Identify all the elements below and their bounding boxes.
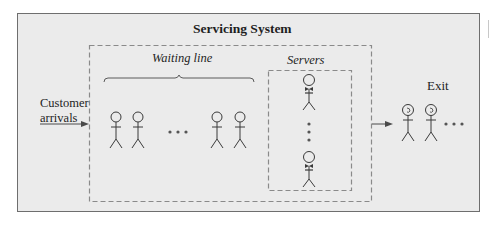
exit-label: Exit [427, 78, 449, 94]
waiting-customer-icon [234, 112, 246, 148]
servers-label: Servers [287, 53, 325, 68]
customer-arrivals-label: Customer arrivals [40, 96, 89, 126]
server-icon [303, 75, 315, 111]
waiting-line-label: Waiting line [152, 51, 212, 66]
exit-arrow [372, 121, 393, 127]
servers-ellipsis-icon [307, 122, 310, 141]
waiting-customer-icon [132, 112, 144, 148]
arrivals-label-line1: Customer [40, 96, 89, 111]
waiting-customer-icon [110, 112, 122, 148]
waiting-line-brace [104, 75, 254, 82]
exited-customer-icon [402, 105, 414, 142]
waiting-ellipsis-icon [168, 130, 187, 133]
arrivals-label-line2: arrivals [40, 111, 89, 126]
server-icon [303, 152, 315, 188]
exited-customer-icon [425, 105, 437, 142]
exit-ellipsis-icon [444, 122, 463, 125]
waiting-customer-icon [211, 112, 223, 148]
servicing-system-box [90, 46, 372, 202]
page-edge-mark [488, 20, 489, 38]
diagram-title: Servicing System [193, 21, 292, 37]
